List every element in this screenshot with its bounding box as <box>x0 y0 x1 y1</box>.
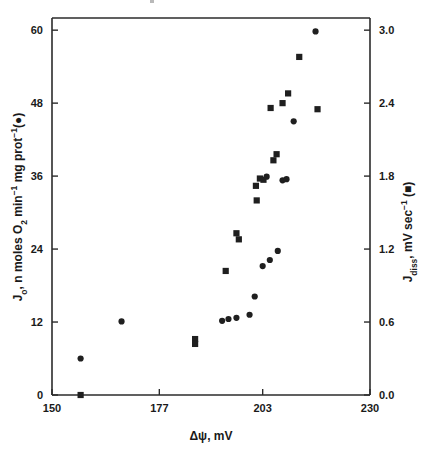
y-right-tick-label: 3.0 <box>379 24 394 36</box>
x-tick-label: 230 <box>361 402 379 414</box>
series-circles <box>78 28 319 361</box>
data-point-circle <box>219 318 225 324</box>
y-right-title-text2: (■) <box>401 182 415 201</box>
plot-canvas: 01224364860 0.00.61.21.82.43.0 150177203… <box>0 0 425 454</box>
y-right-tick-label: 1.8 <box>379 170 394 182</box>
x-ticks: 150177203230 <box>43 389 379 414</box>
data-point-square <box>253 183 259 189</box>
x-axis-title: Δψ, mV <box>189 429 232 443</box>
data-point-circle <box>246 312 252 318</box>
data-point-square <box>78 392 84 398</box>
data-point-square <box>279 100 285 106</box>
y-left-title-text4: (●) <box>11 113 25 128</box>
data-point-circle <box>225 316 231 322</box>
data-point-circle <box>267 257 273 263</box>
data-point-square <box>192 341 198 347</box>
y-left-tick-label: 0 <box>37 389 43 401</box>
data-point-square <box>273 151 279 157</box>
data-point-square <box>254 197 260 203</box>
y-left-title-text2: min <box>11 195 25 220</box>
y-right-tick-label: 0.6 <box>379 316 394 328</box>
y-right-title-j-sub: diss <box>409 258 419 275</box>
data-point-circle <box>283 176 289 182</box>
data-point-square <box>260 177 266 183</box>
y-left-ticks: 01224364860 <box>31 24 58 401</box>
data-point-circle <box>233 315 239 321</box>
scan-artifact <box>150 0 154 3</box>
data-point-square <box>223 268 229 274</box>
data-point-square <box>314 106 320 112</box>
y-left-tick-label: 12 <box>31 316 43 328</box>
scatter-plot-figure: 01224364860 0.00.61.21.82.43.0 150177203… <box>0 0 425 454</box>
y-right-title-text1: , mV sec <box>401 210 415 259</box>
data-point-square <box>285 90 291 96</box>
data-point-circle <box>78 355 84 361</box>
y-right-axis-title: Jdiss, mV sec−1 (■) <box>399 182 419 283</box>
data-point-square <box>236 236 242 242</box>
y-left-title-sup2: −1 <box>9 128 19 138</box>
x-axis-title-text: Δψ, mV <box>189 429 232 443</box>
data-point-square <box>233 230 239 236</box>
data-point-square <box>270 157 276 163</box>
y-left-title-j: J <box>11 295 25 302</box>
x-tick-label: 203 <box>253 402 271 414</box>
plot-frame <box>52 18 370 395</box>
x-tick-label: 177 <box>150 402 168 414</box>
y-right-tick-label: 1.2 <box>379 243 394 255</box>
y-left-title-sup1: −1 <box>9 185 19 195</box>
x-tick-label: 150 <box>43 402 61 414</box>
data-point-square <box>296 54 302 60</box>
data-point-circle <box>252 293 258 299</box>
data-series-layer <box>78 28 321 398</box>
y-right-title-j: J <box>401 276 415 283</box>
data-point-square <box>268 105 274 111</box>
y-left-tick-label: 48 <box>31 97 43 109</box>
y-right-tick-label: 0.0 <box>379 389 394 401</box>
y-left-title-text1: , n moles O <box>11 225 25 290</box>
y-left-tick-label: 36 <box>31 170 43 182</box>
y-right-title-sup1: −1 <box>399 200 409 210</box>
y-right-ticks: 0.00.61.21.82.43.0 <box>364 24 395 401</box>
data-point-circle <box>291 118 297 124</box>
series-squares <box>78 54 321 398</box>
y-right-tick-label: 2.4 <box>379 97 395 109</box>
y-left-tick-label: 24 <box>31 243 44 255</box>
y-left-title-text3: mg prot <box>11 138 25 186</box>
y-left-tick-label: 60 <box>31 24 43 36</box>
data-point-circle <box>312 28 318 34</box>
data-point-circle <box>118 318 124 324</box>
y-left-axis-title: Jo, n moles O2 min−1 mg prot−1(●) <box>9 113 29 302</box>
data-point-circle <box>260 263 266 269</box>
data-point-circle <box>275 248 281 254</box>
